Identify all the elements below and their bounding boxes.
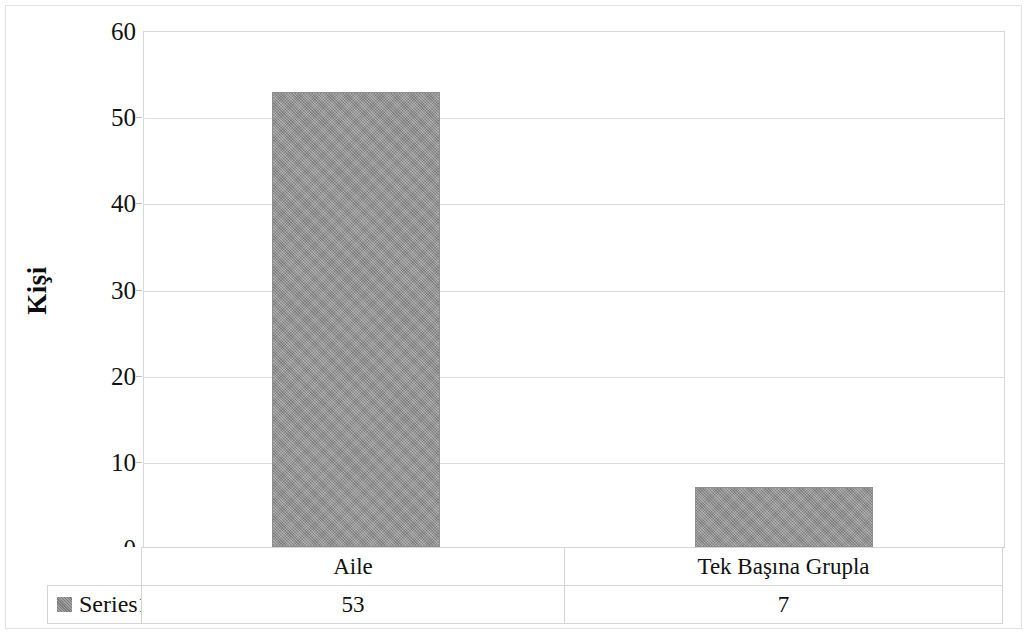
data-table-category-row: Aile Tek Başına Grupla (48, 548, 1005, 586)
data-table-corner-cell (47, 547, 142, 586)
y-axis-tick-labels: 60 50 40 30 20 10 0 (38, 31, 136, 548)
legend-entry-series1[interactable]: Series1 (47, 585, 142, 624)
category-cell-aile: Aile (141, 547, 565, 586)
y-tick-mark-30 (136, 290, 142, 291)
y-tick-30: 30 (56, 277, 136, 302)
y-tick-50: 50 (56, 105, 136, 130)
bar-tek-basina-grupla[interactable] (695, 487, 873, 547)
y-tick-mark-40 (136, 203, 142, 204)
data-table-value-row: Series1 53 7 (48, 586, 1005, 624)
y-tick-mark-50 (136, 117, 142, 118)
y-tick-60: 60 (56, 19, 136, 44)
legend-swatch-icon (57, 597, 72, 612)
bar-aile[interactable] (272, 92, 440, 547)
category-cell-tek-basina-grupla: Tek Başına Grupla (564, 547, 1003, 586)
value-cell-tek-basina-grupla: 7 (564, 585, 1003, 624)
legend-label-series1: Series1 (79, 591, 150, 618)
y-tick-mark-20 (136, 376, 142, 377)
plot-area (143, 31, 1005, 548)
value-cell-aile: 53 (141, 585, 565, 624)
y-tick-40: 40 (56, 191, 136, 216)
chart-data-table: Aile Tek Başına Grupla Series1 53 7 (48, 548, 1005, 624)
y-tick-20: 20 (56, 363, 136, 388)
y-tick-mark-10 (136, 462, 142, 463)
y-tick-10: 10 (56, 449, 136, 474)
bar-chart-figure: Kişi 60 50 40 30 20 10 0 Aile Tek Başına… (0, 0, 1027, 634)
